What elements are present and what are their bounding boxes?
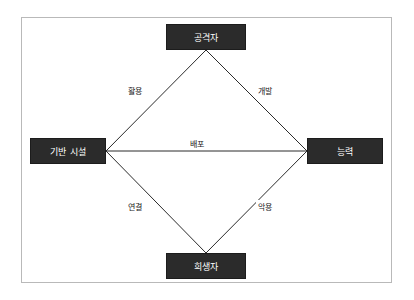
node-infrastructure[interactable]: 기반 시설 [30, 138, 106, 164]
edge-line-develop [206, 50, 307, 151]
edge-label-exploit-use: 활용 [126, 84, 144, 97]
node-victim-label: 희생자 [194, 260, 219, 273]
edge-label-abuse: 악용 [256, 200, 274, 213]
edge-line-connect [106, 151, 206, 253]
diagram-canvas: 공격자 기반 시설 능력 희생자 활용 개발 배포 연결 악용 [0, 0, 414, 300]
node-attacker[interactable]: 공격자 [166, 24, 246, 50]
node-infrastructure-label: 기반 시설 [50, 145, 86, 158]
edge-label-deploy: 배포 [188, 137, 206, 150]
edge-label-connect: 연결 [126, 200, 144, 213]
edge-label-develop: 개발 [256, 84, 274, 97]
edge-line-exploit-use [106, 50, 206, 151]
node-capability[interactable]: 능력 [307, 138, 383, 164]
node-attacker-label: 공격자 [194, 31, 219, 44]
node-victim[interactable]: 희생자 [166, 253, 246, 279]
node-capability-label: 능력 [337, 145, 353, 158]
